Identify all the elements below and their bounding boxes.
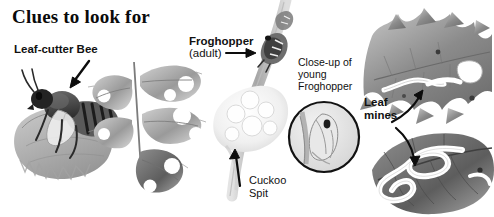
froghopper-stem-illustration <box>213 0 293 196</box>
bee-arrow-icon <box>70 61 89 88</box>
label-closeup-line-2: young <box>298 69 327 81</box>
label-closeup-line-1: Close-up of <box>298 57 352 69</box>
label-cuckoo-spit-line-1: Cuckoo <box>249 174 286 186</box>
froghopper-arrow-icon <box>226 49 256 58</box>
label-leaf-mines-line-2: mines <box>364 109 397 122</box>
mined-leaf-illustration <box>372 133 494 214</box>
froghopper-closeup-inset <box>289 102 359 172</box>
label-closeup-line-3: Froghopper <box>298 81 352 93</box>
plate-artwork <box>0 0 494 217</box>
label-cuckoo-spit-line-2: Spit <box>249 187 268 199</box>
illustration-plate: Clues to look for Leaf-cutter Bee Frogho… <box>0 0 494 217</box>
plate-title: Clues to look for <box>12 6 150 28</box>
label-froghopper: Froghopper <box>189 35 254 48</box>
bee-illustration <box>14 69 118 179</box>
leaf-mines-lower-arrow-icon <box>396 128 420 166</box>
cuckoo-spit-arrow-icon <box>230 149 241 186</box>
label-leaf-mines-line-1: Leaf <box>364 96 388 109</box>
label-leaf-cutter-bee: Leaf-cutter Bee <box>14 43 98 56</box>
rose-sprig-illustration <box>88 62 206 193</box>
label-froghopper-adult: (adult) <box>189 47 222 60</box>
